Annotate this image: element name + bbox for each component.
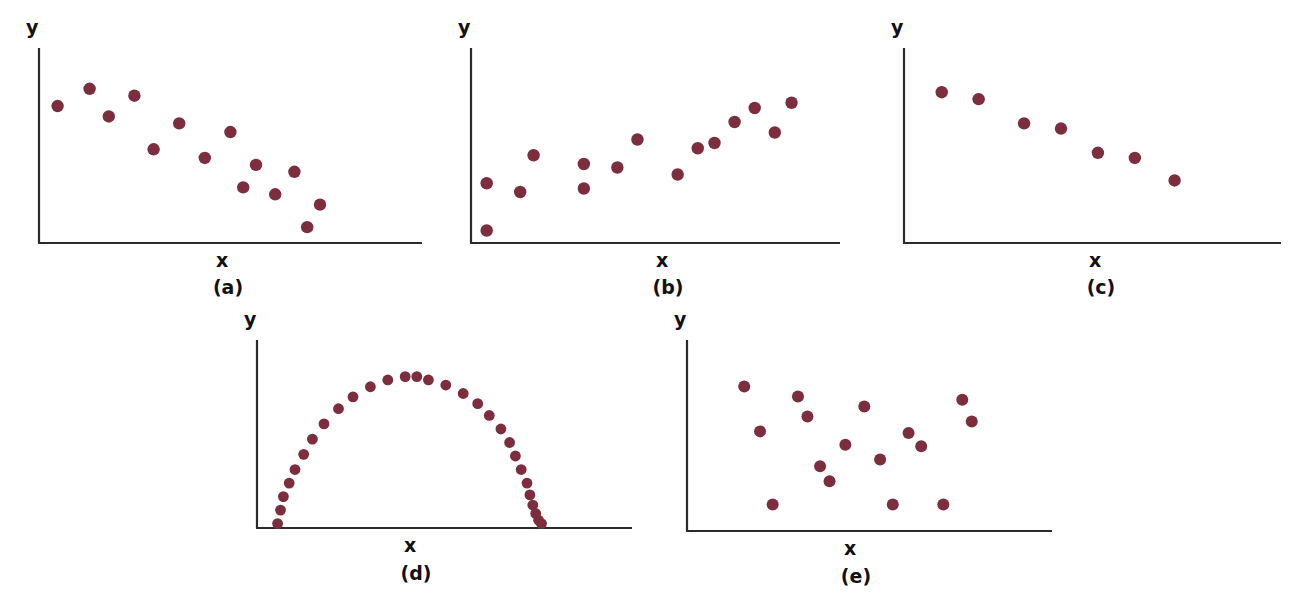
data-point xyxy=(458,388,469,399)
data-point xyxy=(147,143,159,155)
y-axis-label: y xyxy=(26,18,38,37)
data-point xyxy=(611,161,623,173)
data-point xyxy=(103,110,115,122)
data-point xyxy=(936,86,948,98)
data-series-a xyxy=(51,83,326,234)
panel-c: y x (c) xyxy=(903,48,1283,248)
data-point xyxy=(671,168,683,180)
data-point xyxy=(769,126,781,138)
data-point xyxy=(472,398,483,409)
x-axis-label: x xyxy=(656,251,668,270)
panel-d-plot xyxy=(256,340,636,532)
data-point xyxy=(527,149,539,161)
data-point xyxy=(708,137,720,149)
data-point xyxy=(224,126,236,138)
data-point xyxy=(839,439,851,451)
data-point xyxy=(481,224,493,236)
data-point xyxy=(1055,122,1067,134)
data-series-b xyxy=(481,97,798,237)
data-point xyxy=(966,415,978,427)
x-axis-label: x xyxy=(1089,251,1101,270)
panel-a: y x (a) xyxy=(38,48,428,248)
data-point xyxy=(510,451,521,462)
data-point xyxy=(128,89,140,101)
data-series-d xyxy=(272,371,547,529)
data-point xyxy=(814,460,826,472)
data-point xyxy=(956,394,968,406)
data-point xyxy=(728,116,740,128)
data-point xyxy=(514,186,526,198)
data-point xyxy=(298,449,309,460)
data-point xyxy=(749,102,761,114)
data-point xyxy=(272,518,283,529)
x-axis-label: x xyxy=(404,536,416,555)
data-point xyxy=(874,454,886,466)
data-point xyxy=(887,498,899,510)
data-point xyxy=(525,489,536,500)
panel-caption-c: (c) xyxy=(1071,278,1131,297)
data-point xyxy=(382,375,393,386)
data-point xyxy=(915,440,927,452)
data-point xyxy=(288,166,300,178)
panel-e: y x (e) xyxy=(686,340,1056,535)
data-point xyxy=(440,380,451,391)
data-point xyxy=(858,400,870,412)
data-point xyxy=(51,100,63,112)
data-point xyxy=(504,437,515,448)
y-axis-label: y xyxy=(458,18,470,37)
data-series-e xyxy=(738,381,978,511)
data-point xyxy=(423,375,434,386)
data-point xyxy=(400,371,411,382)
data-point xyxy=(785,97,797,109)
panel-c-plot xyxy=(903,48,1283,248)
data-point xyxy=(1129,152,1141,164)
scatterplot-figure: y x (a) y x (b) y x (c) y xyxy=(0,0,1304,606)
y-axis-label: y xyxy=(891,18,903,37)
data-point xyxy=(522,478,533,489)
data-point xyxy=(972,93,984,105)
y-axis-label: y xyxy=(244,310,256,329)
y-axis-label: y xyxy=(674,310,686,329)
data-point xyxy=(516,464,527,475)
data-point xyxy=(173,117,185,129)
data-point xyxy=(484,410,495,421)
data-point xyxy=(307,434,318,445)
data-point xyxy=(314,198,326,210)
data-point xyxy=(411,371,422,382)
data-point xyxy=(278,491,289,502)
data-point xyxy=(237,181,249,193)
data-point xyxy=(1092,147,1104,159)
panel-caption-d: (d) xyxy=(386,564,446,583)
data-point xyxy=(738,381,750,393)
data-point xyxy=(496,424,507,435)
data-point xyxy=(83,83,95,95)
data-point xyxy=(801,410,813,422)
data-point xyxy=(754,425,766,437)
panel-caption-e: (e) xyxy=(826,567,886,586)
data-point xyxy=(578,158,590,170)
data-point xyxy=(481,177,493,189)
data-point xyxy=(1018,117,1030,129)
data-series-c xyxy=(936,86,1181,187)
data-point xyxy=(824,475,836,487)
data-point xyxy=(578,182,590,194)
data-point xyxy=(767,498,779,510)
data-point xyxy=(301,221,313,233)
x-axis-label: x xyxy=(216,251,228,270)
data-point xyxy=(792,391,804,403)
panel-a-plot xyxy=(38,48,428,248)
data-point xyxy=(284,478,295,489)
data-point xyxy=(269,188,281,200)
data-point xyxy=(365,381,376,392)
panel-caption-b: (b) xyxy=(638,278,698,297)
data-point xyxy=(333,403,344,414)
data-point xyxy=(319,419,330,430)
data-point xyxy=(903,427,915,439)
data-point xyxy=(290,464,301,475)
data-point xyxy=(199,152,211,164)
panel-b: y x (b) xyxy=(470,48,860,248)
data-point xyxy=(275,505,286,516)
data-point xyxy=(348,391,359,402)
data-point xyxy=(536,518,547,529)
data-point xyxy=(250,159,262,171)
